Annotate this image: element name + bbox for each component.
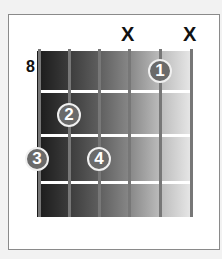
string-1 [38,49,41,217]
fret-line-4 [40,226,190,229]
fret-line-2 [40,134,190,137]
mute-marker-string-6: X [183,24,196,44]
string-6 [190,49,193,217]
finger-marker-3: 3 [25,147,49,171]
string-2 [68,49,71,217]
fret-line-1 [40,90,190,93]
string-4 [128,49,131,217]
finger-marker-2: 2 [57,103,81,127]
finger-marker-1: 1 [148,59,172,83]
starting-fret-label: 8 [26,58,35,76]
string-3 [98,49,101,217]
mute-marker-string-4: X [121,24,134,44]
fret-line-3 [40,181,190,184]
finger-marker-4: 4 [87,147,111,171]
